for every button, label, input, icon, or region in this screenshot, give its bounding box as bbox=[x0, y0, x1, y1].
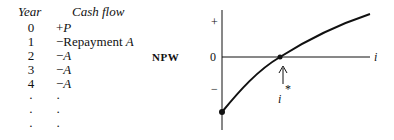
crossing-point bbox=[278, 55, 283, 60]
y-tick-minus: − bbox=[211, 82, 218, 96]
npw-curve bbox=[222, 14, 370, 112]
x-axis-label: i bbox=[374, 50, 377, 64]
npw-chart: + 0 − i i * bbox=[0, 0, 394, 140]
i-star-label: i bbox=[278, 92, 281, 106]
start-point bbox=[219, 109, 225, 115]
y-tick-zero: 0 bbox=[210, 50, 216, 64]
y-tick-plus: + bbox=[211, 15, 218, 29]
i-star-superscript: * bbox=[285, 82, 291, 96]
